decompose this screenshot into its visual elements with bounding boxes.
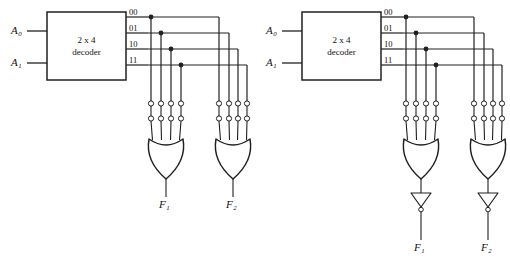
- inverter-f2: [478, 193, 498, 212]
- fuse-point[interactable]: [471, 101, 476, 106]
- junction-dot-10: [169, 47, 174, 52]
- or-gate-f2: [470, 139, 505, 179]
- fuse-point[interactable]: [216, 116, 221, 121]
- fuse-point[interactable]: [168, 101, 173, 106]
- fuse-point[interactable]: [178, 101, 183, 106]
- decoder-output-label-01: 01: [384, 24, 393, 33]
- output-label-f2: F2: [481, 242, 492, 253]
- gate-input-lead: [219, 121, 221, 140]
- fuse-point[interactable]: [481, 101, 486, 106]
- decoder-title-line1: 2 x 4: [47, 36, 126, 45]
- fuse-point[interactable]: [226, 116, 231, 121]
- junction-dot-11: [434, 63, 439, 68]
- fuse-point[interactable]: [403, 101, 408, 106]
- decoder-title-line2: decoder: [47, 48, 126, 57]
- junction-dot-01: [159, 31, 164, 36]
- fuse-point[interactable]: [244, 116, 249, 121]
- fuse-point[interactable]: [471, 116, 476, 121]
- gate-input-lead: [171, 121, 172, 140]
- fuse-point[interactable]: [178, 116, 183, 121]
- fuse-row-lower-gate1: [403, 116, 438, 121]
- fuse-point[interactable]: [490, 101, 495, 106]
- fuse-point[interactable]: [481, 116, 486, 121]
- gate-input-lead: [435, 121, 437, 140]
- fuse-point[interactable]: [158, 101, 163, 106]
- decoder-title-line1: 2 x 4: [302, 36, 381, 45]
- gate-input-lead: [180, 121, 182, 140]
- fuse-row-lower-gate2: [216, 116, 249, 121]
- junction-dot-01: [414, 31, 419, 36]
- or-gate-f1: [403, 139, 438, 179]
- gate-input-lead: [229, 121, 230, 140]
- decoder-output-label-00: 00: [384, 8, 393, 17]
- fuse-point[interactable]: [235, 101, 240, 106]
- fuse-point[interactable]: [423, 101, 428, 106]
- or-gate-f1: [148, 139, 183, 179]
- decoder-title-line2: decoder: [302, 48, 381, 57]
- fuse-point[interactable]: [499, 116, 504, 121]
- gate-input-lead: [247, 121, 248, 140]
- decoder-box: [302, 12, 381, 80]
- fuse-point[interactable]: [433, 116, 438, 121]
- gate-input-lead: [406, 121, 408, 140]
- fuse-row-upper-gate2: [216, 101, 249, 106]
- fuse-point[interactable]: [403, 116, 408, 121]
- fuse-row-upper-gate1: [403, 101, 438, 106]
- fuse-point[interactable]: [244, 101, 249, 106]
- junction-dot-00: [404, 15, 409, 20]
- fuse-row-lower-gate1: [148, 116, 183, 121]
- decoder-output-label-10: 10: [129, 40, 138, 49]
- decoder-output-label-00: 00: [129, 8, 138, 17]
- junction-dot-11: [179, 63, 184, 68]
- gate-input-lead: [502, 121, 503, 140]
- junction-dot-10: [424, 47, 429, 52]
- gate-input-lead: [238, 121, 239, 140]
- inverter-f1: [411, 193, 431, 212]
- gate-input-lead: [151, 121, 153, 140]
- fuse-point[interactable]: [148, 101, 153, 106]
- decoder-output-label-11: 11: [384, 56, 392, 65]
- fuse-row-lower-gate2: [471, 116, 504, 121]
- output-label-f1: F1: [159, 199, 170, 210]
- output-label-f2: F2: [226, 199, 237, 210]
- gate-input-lead: [161, 121, 162, 140]
- fuse-point[interactable]: [226, 101, 231, 106]
- fuse-point[interactable]: [433, 101, 438, 106]
- fuse-point[interactable]: [148, 116, 153, 121]
- fuse-point[interactable]: [490, 116, 495, 121]
- fuse-point[interactable]: [235, 116, 240, 121]
- fuse-point[interactable]: [423, 116, 428, 121]
- decoder-output-label-01: 01: [129, 24, 138, 33]
- fuse-point[interactable]: [413, 116, 418, 121]
- decoder-output-label-11: 11: [129, 56, 137, 65]
- input-label-a1: A1: [11, 57, 22, 68]
- gate-input-lead: [474, 121, 476, 140]
- input-label-a0: A0: [266, 25, 277, 36]
- fuse-row-upper-gate1: [148, 101, 183, 106]
- or-gate-f2: [215, 139, 250, 179]
- fuse-point[interactable]: [499, 101, 504, 106]
- decoder-box: [47, 12, 126, 80]
- gate-input-lead: [484, 121, 485, 140]
- input-label-a0: A0: [11, 25, 22, 36]
- input-label-a1: A1: [266, 57, 277, 68]
- decoder-output-label-10: 10: [384, 40, 393, 49]
- fuse-point[interactable]: [158, 116, 163, 121]
- gate-input-lead: [426, 121, 427, 140]
- fuse-point[interactable]: [413, 101, 418, 106]
- right-circuit: [282, 12, 506, 240]
- junction-dot-00: [149, 15, 154, 20]
- output-label-f1: F1: [414, 242, 425, 253]
- fuse-row-upper-gate2: [471, 101, 504, 106]
- fuse-point[interactable]: [168, 116, 173, 121]
- gate-input-lead: [493, 121, 494, 140]
- fuse-point[interactable]: [216, 101, 221, 106]
- gate-input-lead: [416, 121, 417, 140]
